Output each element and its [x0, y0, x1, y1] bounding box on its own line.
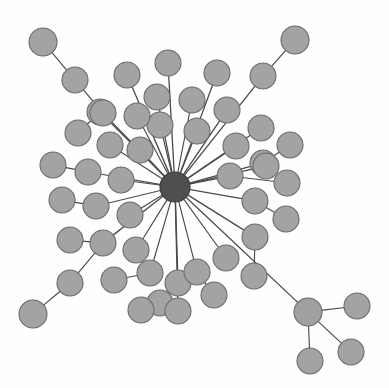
graph-node[interactable]	[217, 163, 243, 189]
graph-edge	[43, 291, 61, 306]
graph-node[interactable]	[147, 112, 173, 138]
node-circle	[147, 112, 173, 138]
node-circle	[155, 50, 181, 76]
graph-node[interactable]	[250, 63, 276, 89]
graph-subhub-node[interactable]	[294, 298, 322, 326]
graph-edge	[153, 200, 171, 261]
node-layer	[19, 26, 370, 374]
node-circle	[213, 245, 239, 271]
graph-node[interactable]	[19, 300, 47, 328]
graph-node[interactable]	[127, 137, 153, 163]
node-circle	[242, 188, 268, 214]
node-circle	[65, 120, 91, 146]
node-circle	[29, 28, 57, 56]
node-circle	[214, 97, 240, 123]
node-circle	[83, 193, 109, 219]
graph-node[interactable]	[184, 259, 210, 285]
node-circle	[241, 263, 267, 289]
graph-edge	[74, 202, 84, 204]
graph-node[interactable]	[108, 167, 134, 193]
graph-node[interactable]	[49, 187, 75, 213]
node-circle	[274, 170, 300, 196]
graph-node[interactable]	[65, 120, 91, 146]
graph-edge	[140, 194, 163, 208]
graph-node[interactable]	[90, 230, 116, 256]
network-graph	[0, 0, 389, 388]
node-circle	[273, 206, 299, 232]
graph-edge	[65, 167, 76, 169]
graph-node[interactable]	[75, 159, 101, 185]
graph-node[interactable]	[201, 282, 227, 308]
graph-node[interactable]	[62, 67, 88, 93]
graph-edge	[309, 325, 310, 349]
node-circle	[19, 300, 47, 328]
node-circle	[62, 67, 88, 93]
node-circle	[250, 63, 276, 89]
graph-node[interactable]	[97, 132, 123, 158]
graph-node[interactable]	[213, 245, 239, 271]
node-circle	[253, 153, 279, 179]
graph-node[interactable]	[57, 270, 83, 296]
graph-node[interactable]	[344, 293, 370, 319]
node-circle	[57, 227, 83, 253]
graph-node[interactable]	[137, 260, 163, 286]
graph-edge	[51, 52, 67, 71]
graph-node[interactable]	[253, 153, 279, 179]
graph-edge	[126, 275, 138, 277]
graph-node[interactable]	[273, 206, 299, 232]
graph-node[interactable]	[277, 132, 303, 158]
node-circle	[75, 159, 101, 185]
graph-edge	[78, 252, 96, 273]
graph-node[interactable]	[223, 133, 249, 159]
graph-node[interactable]	[204, 60, 230, 86]
graph-node[interactable]	[248, 115, 274, 141]
graph-node[interactable]	[57, 227, 83, 253]
graph-node[interactable]	[123, 237, 149, 263]
node-circle	[294, 298, 322, 326]
graph-node[interactable]	[114, 62, 140, 88]
graph-node[interactable]	[144, 84, 170, 110]
node-circle	[165, 298, 191, 324]
node-circle	[90, 230, 116, 256]
graph-edge	[321, 307, 345, 310]
graph-node[interactable]	[29, 28, 57, 56]
graph-node[interactable]	[83, 193, 109, 219]
graph-node[interactable]	[40, 152, 66, 178]
graph-node[interactable]	[242, 224, 268, 250]
node-circle	[97, 132, 123, 158]
graph-node[interactable]	[90, 100, 116, 126]
graph-hub-node[interactable]	[160, 172, 190, 202]
node-circle	[242, 224, 268, 250]
graph-node[interactable]	[184, 118, 210, 144]
graph-node[interactable]	[338, 339, 364, 365]
node-circle	[201, 282, 227, 308]
node-circle	[179, 87, 205, 113]
graph-node[interactable]	[165, 298, 191, 324]
graph-node[interactable]	[241, 263, 267, 289]
graph-node[interactable]	[128, 297, 154, 323]
node-circle	[127, 137, 153, 163]
graph-node[interactable]	[297, 348, 323, 374]
graph-edge	[318, 321, 343, 344]
graph-node[interactable]	[274, 170, 300, 196]
graph-edge	[271, 50, 286, 67]
graph-canvas	[0, 0, 389, 388]
graph-node[interactable]	[124, 103, 150, 129]
graph-node[interactable]	[101, 267, 127, 293]
node-circle	[128, 297, 154, 323]
node-circle	[57, 270, 83, 296]
graph-node[interactable]	[117, 202, 143, 228]
node-circle	[338, 339, 364, 365]
graph-node[interactable]	[155, 50, 181, 76]
graph-node[interactable]	[179, 87, 205, 113]
node-circle	[117, 202, 143, 228]
node-circle	[297, 348, 323, 374]
graph-node[interactable]	[242, 188, 268, 214]
node-circle	[108, 167, 134, 193]
node-circle	[144, 84, 170, 110]
graph-node[interactable]	[281, 26, 309, 54]
node-circle	[114, 62, 140, 88]
graph-edge	[265, 207, 275, 213]
node-circle	[90, 100, 116, 126]
graph-node[interactable]	[214, 97, 240, 123]
